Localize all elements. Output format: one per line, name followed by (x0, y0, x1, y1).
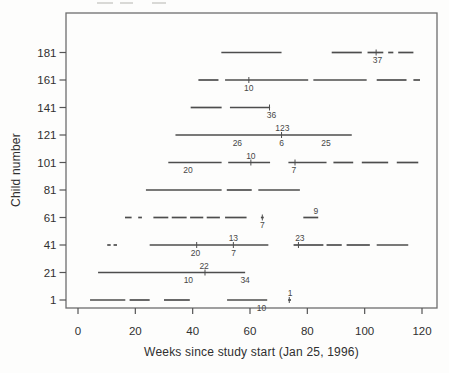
y-axis-tick-label: 61 (44, 212, 57, 224)
segment-annotation: 7 (260, 220, 265, 230)
child-row: 101 (90, 288, 293, 313)
child-row: 36 (191, 105, 277, 121)
child-row: 79 (125, 206, 319, 231)
x-axis-tick-label: 120 (412, 325, 431, 337)
segment-annotation: 13 (229, 233, 239, 243)
segment-annotation: 10 (246, 151, 256, 161)
segment-annotation: 10 (184, 275, 194, 285)
child-row: 20107 (168, 151, 418, 176)
segment-annotation: 26 (233, 138, 243, 148)
segment-annotation: 10 (244, 83, 254, 93)
segment-annotation: 10 (257, 303, 267, 313)
x-axis-title: Weeks since study start (Jan 25, 1996) (66, 345, 437, 359)
segment-annotation: 37 (373, 55, 383, 65)
x-axis-tick-label: 100 (355, 325, 374, 337)
y-axis-tick-label: 41 (44, 239, 57, 251)
segment-annotation: 123 (275, 123, 289, 133)
x-axis: 020406080100120 (75, 308, 432, 337)
segment-annotation: 22 (199, 261, 209, 271)
segment-annotation: 9 (314, 206, 319, 216)
segment-annotation: 34 (240, 275, 250, 285)
x-axis-tick-label: 60 (244, 325, 257, 337)
data-rows: 1011022342013723792010726123625361037 (90, 50, 420, 313)
x-axis-tick-label: 20 (129, 325, 142, 337)
x-axis-tick-label: 40 (186, 325, 199, 337)
segment-annotation: 20 (191, 248, 201, 258)
segment-annotation: 6 (279, 138, 284, 148)
y-axis-tick-label: 21 (44, 267, 57, 279)
segment-annotation: 20 (183, 165, 193, 175)
y-axis-title: Child number (9, 70, 25, 270)
y-axis-tick-label: 161 (37, 74, 56, 86)
segment-annotation: 36 (267, 110, 277, 120)
y-axis-tick-label: 181 (37, 47, 56, 59)
y-axis-tick-label: 81 (44, 184, 57, 196)
y-axis: 121416181101121141161181 (37, 47, 66, 307)
x-axis-tick-label: 0 (75, 325, 81, 337)
child-row: 102234 (98, 261, 250, 286)
child-row: 37 (221, 50, 413, 66)
segment-annotation: 7 (231, 248, 236, 258)
y-axis-tick-label: 1 (50, 294, 56, 306)
segment-annotation: 7 (291, 165, 296, 175)
child-row: 10 (198, 77, 420, 93)
segment-annotation: 1 (288, 288, 293, 298)
segment-plot-canvas: 0204060801001201214161811011211411611811… (0, 0, 449, 373)
segment-annotation: 23 (295, 233, 305, 243)
child-row: 26123625 (175, 123, 351, 148)
y-axis-tick-label: 141 (37, 102, 56, 114)
y-axis-tick-label: 121 (37, 129, 56, 141)
x-axis-tick-label: 80 (301, 325, 314, 337)
segment-annotation: 25 (321, 138, 331, 148)
child-row: 2013723 (107, 233, 408, 258)
y-axis-tick-label: 101 (37, 157, 56, 169)
figure: 0204060801001201214161811011211411611811… (0, 0, 449, 373)
